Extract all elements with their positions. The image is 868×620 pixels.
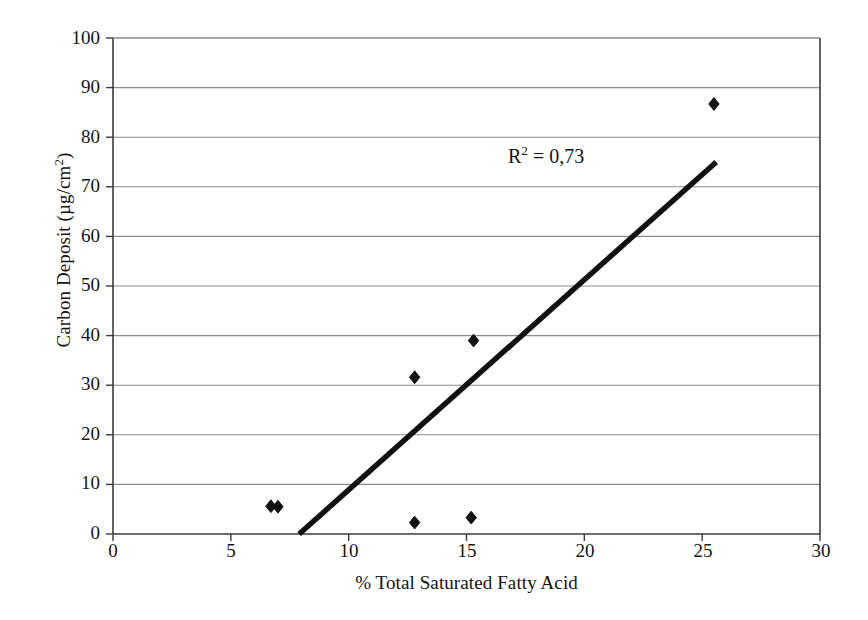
data-point [709,98,719,111]
chart-figure: Carbon Deposit (µg/cm2) % Total Saturate… [0,0,868,620]
trend-line [299,162,716,534]
data-points [266,98,719,529]
plot-area [0,0,868,620]
data-point [466,511,476,524]
data-point [409,516,419,529]
data-point [273,500,283,513]
data-point [409,371,419,384]
trendline [299,162,716,534]
axis-ticks [106,38,820,541]
